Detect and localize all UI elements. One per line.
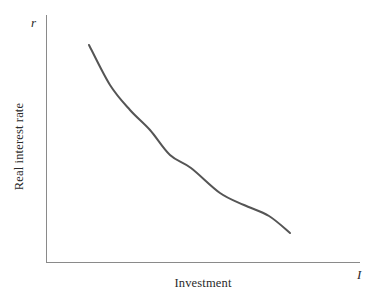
x-axis-title: Investment xyxy=(46,276,360,291)
y-axis-title: Real interest rate xyxy=(0,90,40,202)
investment-demand-chart: r I Real interest rate Investment xyxy=(0,0,385,299)
y-axis-variable-label: r xyxy=(31,16,36,29)
investment-demand-curve xyxy=(89,45,290,233)
y-axis-title-text: Real interest rate xyxy=(13,102,28,189)
plot-canvas xyxy=(0,0,385,299)
